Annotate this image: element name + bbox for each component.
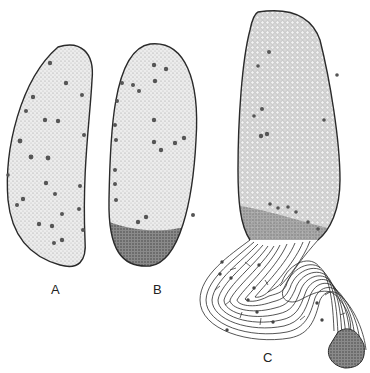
panel-label-b: B (153, 282, 162, 297)
panel-c-shape (200, 11, 366, 368)
panel-b-shape (100, 44, 205, 275)
scientific-illustration (0, 0, 370, 373)
panel-label-c: C (263, 350, 272, 365)
panel-a-shape (6, 45, 92, 266)
panel-label-a: A (51, 282, 60, 297)
